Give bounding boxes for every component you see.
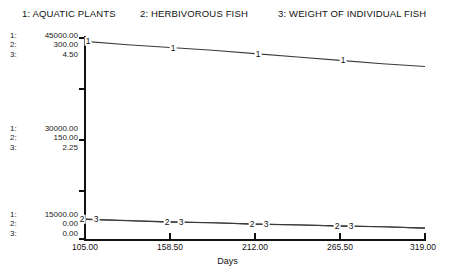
x-axis-label-5: 319.00 — [393, 242, 453, 252]
chart-canvas: 1: AQUATIC PLANTS 2: HERBIVOROUS FISH 3:… — [0, 0, 455, 276]
y-scale-bottom-series-1: 1: 15000.00 — [0, 210, 80, 219]
x-axis-title: Days — [0, 256, 455, 266]
series-2-marker: 2 — [79, 215, 86, 224]
y-scale-top-value-1: 45000.00 — [20, 31, 78, 40]
y-scale-bottom-value-1: 15000.00 — [20, 210, 78, 219]
y-scale-bottom-series-2: 2: 0.00 — [0, 219, 80, 228]
series-2-marker: 2 — [164, 218, 171, 227]
x-axis-tick-4 — [339, 233, 341, 240]
x-axis-label-2: 158.50 — [140, 242, 200, 252]
x-axis-tick-5 — [424, 233, 426, 240]
series-3-marker: 3 — [178, 218, 185, 227]
y-scale-top-value-3: 4.50 — [20, 50, 78, 59]
y-axis-tick-middle — [79, 139, 85, 141]
series-1-marker: 1 — [340, 56, 347, 65]
legend-item-herbivorous-fish: 2: HERBIVOROUS FISH — [140, 8, 248, 19]
y-scale-labels-top: 1: 45000.00 2: 300.00 3: 4.50 — [0, 31, 80, 61]
y-axis-tick-lower-mid — [79, 190, 85, 192]
series-2-marker: 2 — [249, 220, 256, 229]
y-scale-labels-middle: 1: 30000.00 2: 150.00 3: 2.25 — [0, 124, 80, 154]
series-1-marker: 1 — [85, 37, 92, 46]
y-scale-middle-value-1: 30000.00 — [20, 124, 78, 133]
x-axis-label-1: 105.00 — [55, 242, 115, 252]
series-2-marker: 2 — [334, 222, 341, 231]
x-axis-tick-2 — [169, 233, 171, 240]
series-3-marker: 3 — [93, 215, 100, 224]
y-axis-tick-upper-mid — [79, 88, 85, 90]
legend-item-aquatic-plants: 1: AQUATIC PLANTS — [22, 8, 116, 19]
y-scale-top-series-1: 1: 45000.00 — [0, 31, 80, 40]
y-scale-top-series-3: 3: 4.50 — [0, 50, 80, 59]
y-scale-bottom-value-2: 0.00 — [20, 219, 78, 228]
series-3-marker: 3 — [348, 222, 355, 231]
legend: 1: AQUATIC PLANTS 2: HERBIVOROUS FISH 3:… — [0, 8, 455, 22]
x-axis-tick-1 — [84, 233, 86, 240]
y-scale-middle-value-3: 2.25 — [20, 143, 78, 152]
y-scale-middle-series-1: 1: 30000.00 — [0, 124, 80, 133]
y-scale-middle-value-2: 150.00 — [20, 133, 78, 142]
y-scale-bottom-value-3: 0.00 — [20, 229, 78, 238]
y-scale-top-value-2: 300.00 — [20, 40, 78, 49]
y-scale-labels-bottom: 1: 15000.00 2: 0.00 3: 0.00 — [0, 210, 80, 240]
x-axis-label-4: 265.50 — [310, 242, 370, 252]
y-scale-middle-series-3: 3: 2.25 — [0, 143, 80, 152]
y-scale-top-series-2: 2: 300.00 — [0, 40, 80, 49]
legend-item-weight-of-individual-fish: 3: WEIGHT OF INDIVIDUAL FISH — [278, 8, 426, 19]
x-axis-tick-3 — [254, 233, 256, 240]
series-1-marker: 1 — [255, 49, 262, 58]
y-scale-bottom-series-3: 3: 0.00 — [0, 229, 80, 238]
series-3-marker: 3 — [263, 220, 270, 229]
y-scale-middle-series-2: 2: 150.00 — [0, 133, 80, 142]
x-axis-label-3: 212.00 — [225, 242, 285, 252]
series-1-marker: 1 — [170, 43, 177, 52]
